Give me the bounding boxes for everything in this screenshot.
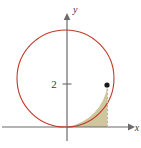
- circle-curve: [17, 30, 114, 127]
- circle-shaded-region-diagram: 2 y x: [0, 0, 141, 148]
- figure-container: 2 y x: [0, 0, 141, 148]
- shaded-region: [67, 85, 108, 127]
- marked-point: [104, 82, 109, 87]
- y-axis: [64, 13, 71, 141]
- y-tick-label-2: 2: [51, 78, 57, 90]
- x-axis-label: x: [134, 122, 140, 133]
- y-axis-label: y: [72, 4, 78, 15]
